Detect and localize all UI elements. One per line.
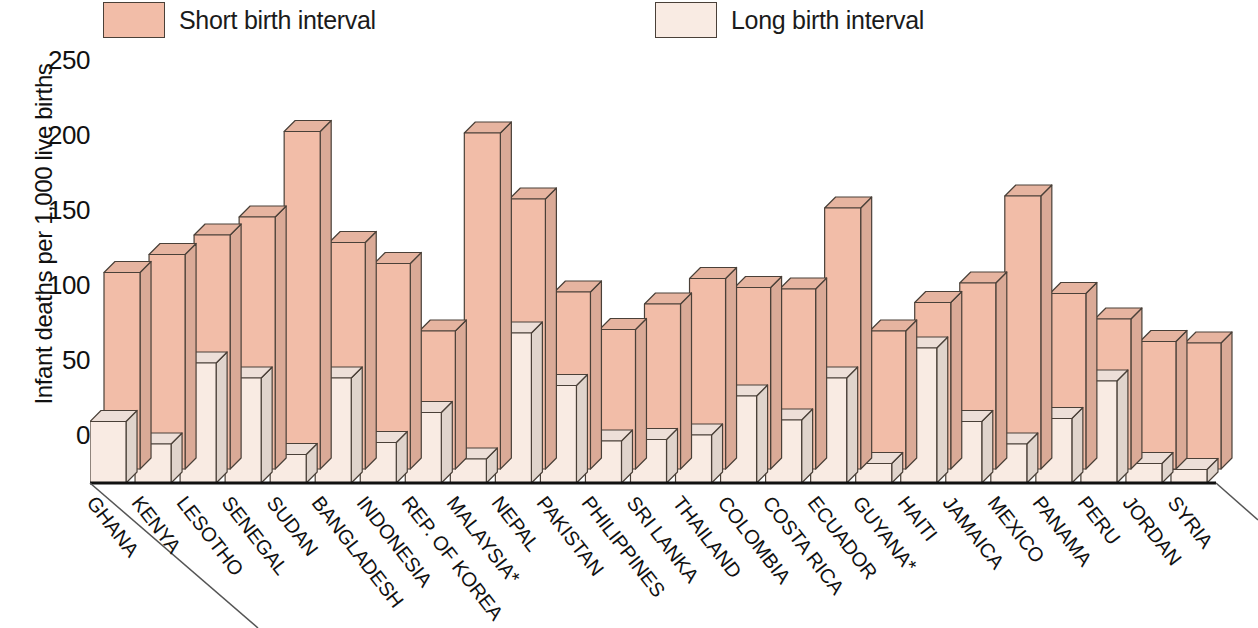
x-axis-category-labels: GHANAKENYALESOTHOSENEGALSUDANBANGLADESHI…	[0, 0, 1258, 628]
chart-figure: Short birth interval Long birth interval…	[0, 0, 1258, 628]
